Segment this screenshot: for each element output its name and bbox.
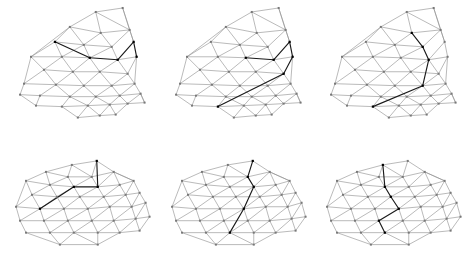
mesh-edge (252, 160, 269, 171)
mesh-edge (421, 206, 425, 220)
mesh-edge (176, 95, 196, 96)
mesh-edge (255, 115, 271, 116)
mesh-node (408, 185, 410, 187)
mesh-edge (403, 206, 421, 220)
mesh-edge (40, 208, 44, 220)
mesh-edge (366, 42, 395, 45)
mesh-node (49, 183, 51, 185)
mesh-edge (407, 8, 434, 12)
mesh-node (436, 193, 438, 195)
mesh-edge (136, 218, 140, 230)
mesh-edge (31, 27, 70, 57)
mesh-node (402, 175, 404, 177)
mesh-node (394, 44, 396, 46)
mesh-edge (373, 57, 384, 72)
mesh-edge (97, 160, 114, 171)
mesh-edge (187, 42, 211, 57)
mesh-node (383, 71, 385, 73)
mesh-edge (351, 196, 368, 208)
mesh-node (365, 41, 367, 43)
mesh-edge (78, 106, 88, 118)
mesh-edge (44, 220, 50, 232)
path-node (244, 57, 246, 59)
mesh-node (228, 71, 230, 73)
mesh-edge (70, 27, 101, 33)
mesh-edge (342, 27, 381, 57)
mesh-edge (200, 70, 229, 72)
mesh-node (186, 56, 188, 58)
mesh-edge (439, 94, 452, 104)
mesh-node (15, 205, 17, 207)
mesh-edge (399, 106, 411, 116)
mesh-edge (247, 220, 253, 232)
path-node (252, 185, 254, 187)
mesh-edges (331, 8, 456, 118)
mesh-node (217, 56, 219, 58)
mesh-node (350, 95, 352, 97)
mesh-edge (68, 220, 74, 232)
mesh-edge (271, 104, 283, 115)
path-edge (90, 58, 118, 60)
mesh-edge (213, 186, 230, 196)
path-node (282, 73, 284, 75)
mesh-edge (73, 58, 90, 72)
mesh-edge (367, 72, 384, 85)
mesh-node (356, 170, 358, 172)
mesh-edge (269, 206, 287, 220)
mesh-edge (265, 104, 283, 105)
mesh-edge (441, 30, 445, 42)
mesh-edge (74, 232, 98, 244)
mesh-edge (366, 42, 373, 57)
mesh-edge (256, 30, 285, 33)
mesh-edge (226, 86, 240, 97)
mesh-edge (301, 202, 305, 216)
mesh-edge (114, 171, 120, 184)
mesh-node (199, 69, 201, 71)
mesh-edge (98, 171, 114, 186)
mesh-edge (351, 85, 367, 96)
mesh-edge (267, 47, 273, 60)
mesh-edge (72, 164, 92, 176)
mesh-node (282, 103, 284, 105)
mesh-edge (188, 194, 213, 196)
mesh-node (456, 201, 458, 203)
mesh-edge (429, 42, 445, 60)
mesh-node (95, 96, 97, 98)
mesh-node (187, 193, 189, 195)
path-node (378, 219, 380, 221)
mesh-node (266, 46, 268, 48)
mesh-node (398, 105, 400, 107)
mesh-edge (366, 27, 381, 42)
mesh-node (289, 83, 291, 85)
mesh-edge (342, 57, 355, 70)
mesh-edge (384, 72, 395, 86)
mesh-node (69, 26, 71, 28)
mesh-edge (427, 104, 439, 115)
mesh-edge (84, 33, 101, 45)
mesh-edge (130, 30, 134, 42)
mesh-node (39, 95, 41, 97)
mesh-edge (239, 45, 245, 58)
mesh-node (122, 7, 124, 9)
mesh-edge (255, 105, 265, 116)
mesh-svg (311, 137, 467, 273)
path-node (242, 207, 244, 209)
mesh-edge (247, 171, 269, 176)
mesh-node (125, 193, 127, 195)
mesh-node (87, 105, 89, 107)
mesh-node (450, 191, 452, 193)
mesh-edge (100, 72, 112, 86)
mesh-edge (229, 232, 253, 244)
mesh-edge (361, 220, 379, 232)
mesh-edge (56, 85, 70, 97)
mesh-node (286, 205, 288, 207)
mesh-edge (88, 196, 104, 208)
mesh-edge (141, 94, 145, 103)
mesh-edge (36, 96, 40, 106)
mesh-edge (251, 86, 267, 97)
mesh-edge (425, 171, 431, 184)
mesh-edge (226, 12, 252, 27)
mesh-edge (391, 186, 409, 196)
mesh-edge (88, 105, 110, 106)
mesh-node (370, 243, 372, 245)
